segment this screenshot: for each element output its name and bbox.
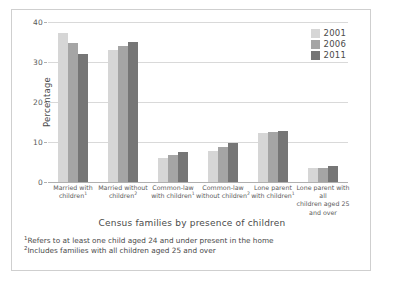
bar [108, 50, 118, 182]
legend-label: 2001 [324, 28, 346, 38]
x-tick-label: Lone parent with allchildren aged 25and … [292, 184, 354, 217]
x-tick-label: Common-lawwithout children2 [195, 184, 251, 200]
bar-group [48, 22, 98, 182]
legend-swatch [311, 29, 320, 38]
bar-group [248, 22, 298, 182]
x-tick-label: Married withchildren1 [45, 184, 101, 200]
bar [128, 42, 138, 182]
bar [308, 168, 318, 182]
bar [168, 155, 178, 182]
legend-swatch [311, 51, 320, 60]
bar-group [98, 22, 148, 182]
bar [318, 168, 328, 182]
bar [158, 158, 168, 182]
x-axis-title: Census families by presence of children [12, 218, 372, 228]
bar [278, 131, 288, 182]
y-tick-mark [44, 182, 47, 183]
bar [218, 147, 228, 182]
footnote: 1Refers to at least one child aged 24 an… [24, 236, 354, 246]
legend-item: 2011 [311, 50, 346, 60]
bars-layer [48, 22, 348, 182]
x-tick-label: Married withoutchildren2 [95, 184, 151, 200]
bar-group [148, 22, 198, 182]
y-tick-label: 0 [38, 178, 43, 187]
legend-label: 2006 [324, 39, 346, 49]
plot-area: 010203040 Percentage [48, 22, 348, 182]
y-tick-mark [44, 22, 47, 23]
x-tick-label: Common-lawwith children1 [145, 184, 201, 200]
y-axis-title: Percentage [42, 77, 52, 127]
y-tick-label: 10 [33, 138, 43, 147]
bar [68, 43, 78, 182]
bar [258, 133, 268, 182]
bar-group [198, 22, 248, 182]
legend-swatch [311, 40, 320, 49]
bar [178, 152, 188, 182]
legend: 200120062011 [311, 28, 346, 60]
y-tick-label: 40 [33, 18, 43, 27]
legend-item: 2001 [311, 28, 346, 38]
bar [228, 143, 238, 182]
legend-label: 2011 [324, 50, 346, 60]
bar [208, 151, 218, 182]
x-axis-labels: Married withchildren1Married withoutchil… [48, 184, 348, 216]
footnote: 2Includes families with all children age… [24, 246, 354, 256]
bar [328, 166, 338, 182]
y-tick-mark [44, 62, 47, 63]
y-tick-label: 30 [33, 58, 43, 67]
chart-figure: 010203040 Percentage Married withchildre… [11, 9, 371, 271]
bar [118, 46, 128, 182]
bar [268, 132, 278, 182]
footnotes: 1Refers to at least one child aged 24 an… [24, 236, 354, 256]
gridline [48, 182, 348, 183]
bar [78, 54, 88, 182]
legend-item: 2006 [311, 39, 346, 49]
bar [58, 33, 68, 182]
y-tick-mark [44, 142, 47, 143]
